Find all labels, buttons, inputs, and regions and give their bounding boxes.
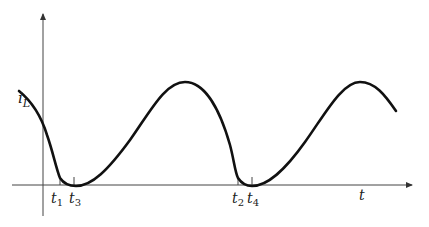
y-axis-label: iL <box>18 89 30 110</box>
marker-t2: t2 <box>232 190 244 208</box>
marker-t4: t4 <box>247 190 259 208</box>
diagram: iL t1 t3 t2 t4 t <box>0 0 429 227</box>
marker-t3: t3 <box>69 190 81 208</box>
marker-t1: t1 <box>51 190 63 208</box>
waveform-plot: iL t1 t3 t2 t4 t <box>0 0 429 227</box>
inductor-current-curve <box>19 82 396 186</box>
x-axis-label: t <box>359 187 365 203</box>
